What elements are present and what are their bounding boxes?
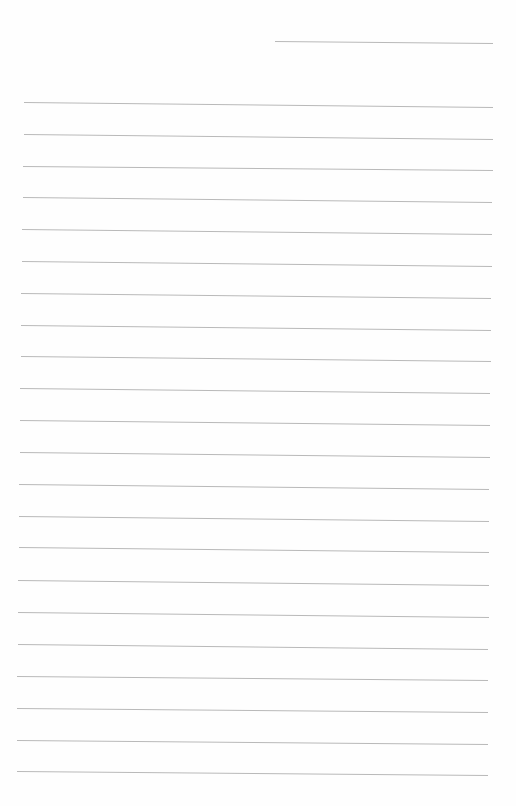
ruled-line <box>20 421 490 426</box>
ruled-line <box>17 709 488 713</box>
ruled-line <box>17 677 488 681</box>
header-line <box>275 42 493 44</box>
ruled-line <box>22 262 492 267</box>
ruled-line <box>17 741 488 745</box>
ruled-line <box>21 294 491 299</box>
ruled-line <box>19 548 489 553</box>
ruled-line <box>17 772 488 776</box>
ruled-line <box>23 198 492 203</box>
ruled-line <box>18 581 489 586</box>
ruled-lines <box>0 0 516 806</box>
ruled-line <box>24 103 493 108</box>
ruled-line <box>21 326 491 331</box>
ruled-line <box>24 135 493 140</box>
ruled-line <box>20 453 490 458</box>
ruled-line <box>18 613 489 618</box>
ruled-line <box>22 230 492 235</box>
ruled-line <box>19 485 489 490</box>
ruled-line <box>19 517 489 522</box>
ruled-line <box>18 645 488 650</box>
ruled-line <box>20 389 490 394</box>
lined-paper-page <box>0 0 516 806</box>
ruled-line <box>21 357 491 362</box>
ruled-line <box>23 167 493 171</box>
